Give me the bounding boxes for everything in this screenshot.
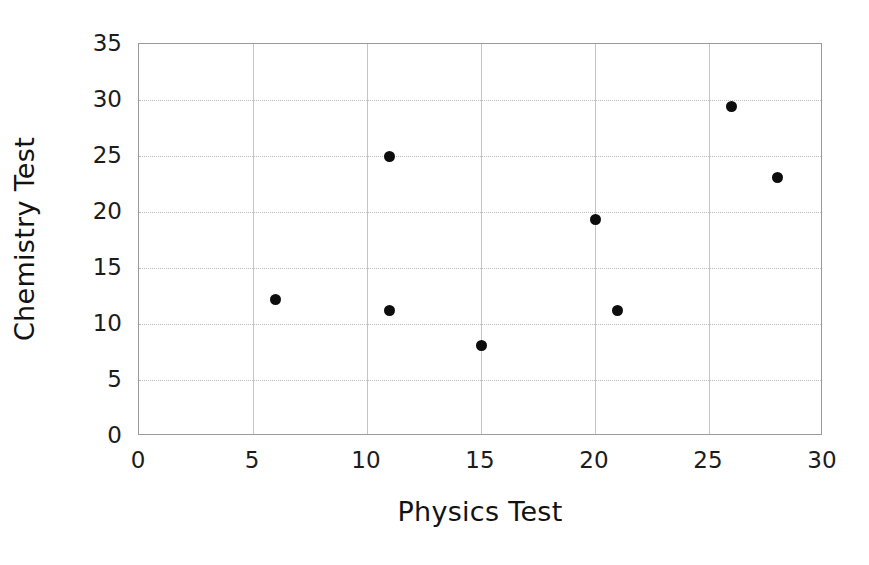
- data-point: [476, 340, 487, 351]
- gridline-horizontal: [139, 212, 821, 213]
- gridline-horizontal: [139, 324, 821, 325]
- x-axis-tick-label: 5: [212, 449, 292, 472]
- data-point: [590, 214, 601, 225]
- x-axis-tick-label: 25: [668, 449, 748, 472]
- gridline-vertical: [367, 44, 368, 434]
- x-axis-tick-label: 30: [782, 449, 862, 472]
- data-point: [384, 151, 395, 162]
- y-axis-title-container: Chemistry Test: [0, 43, 48, 435]
- x-axis-tick-label: 15: [440, 449, 520, 472]
- data-point: [726, 101, 737, 112]
- y-axis-tick-labels: 05101520253035: [60, 43, 122, 435]
- data-point: [772, 172, 783, 183]
- gridline-vertical: [595, 44, 596, 434]
- y-axis-tick-label: 10: [62, 312, 122, 335]
- y-axis-tick-label: 15: [62, 256, 122, 279]
- x-axis-tick-label: 0: [98, 449, 178, 472]
- scatter-plot-figure: Chemistry Test 05101520253035 0510152025…: [0, 0, 869, 565]
- y-axis-tick-label: 25: [62, 144, 122, 167]
- data-point: [270, 294, 281, 305]
- gridline-horizontal: [139, 380, 821, 381]
- x-axis-tick-labels: 051015202530: [138, 449, 822, 483]
- y-axis-title: Chemistry Test: [9, 137, 40, 341]
- gridline-horizontal: [139, 100, 821, 101]
- x-axis-title: Physics Test: [138, 496, 822, 527]
- y-axis-tick-label: 5: [62, 368, 122, 391]
- x-axis-tick-label: 10: [326, 449, 406, 472]
- gridline-horizontal: [139, 268, 821, 269]
- y-axis-tick-label: 20: [62, 200, 122, 223]
- data-point: [612, 305, 623, 316]
- plot-area: [138, 43, 822, 435]
- y-axis-tick-label: 0: [62, 424, 122, 447]
- gridline-vertical: [709, 44, 710, 434]
- gridline-horizontal: [139, 156, 821, 157]
- data-point: [384, 305, 395, 316]
- gridline-vertical: [253, 44, 254, 434]
- y-axis-tick-label: 35: [62, 32, 122, 55]
- y-axis-tick-label: 30: [62, 88, 122, 111]
- x-axis-tick-label: 20: [554, 449, 634, 472]
- gridline-vertical: [481, 44, 482, 434]
